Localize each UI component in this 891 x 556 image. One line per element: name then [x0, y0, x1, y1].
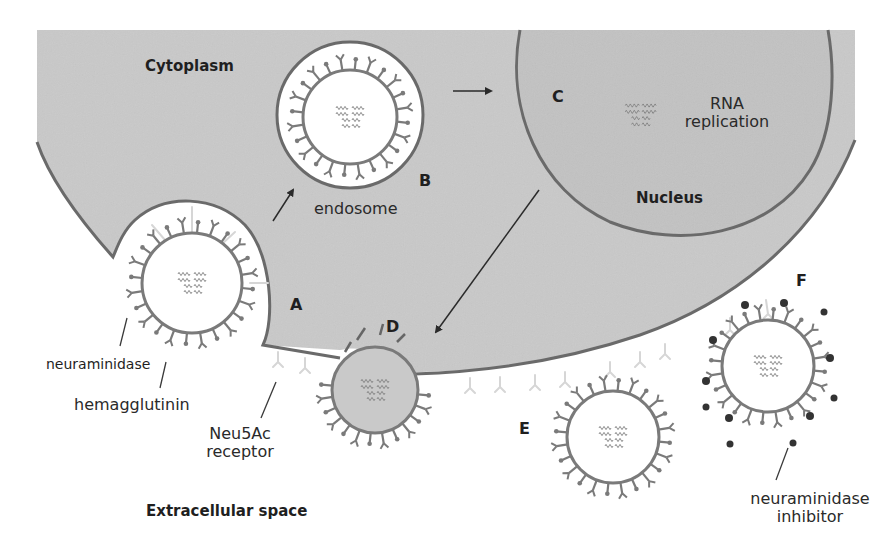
stage-f-label: F: [796, 272, 807, 290]
neuraminidase-inhibitor-label: neuraminidase inhibitor: [735, 490, 885, 525]
stage-d-label: D: [386, 318, 399, 336]
stage-e-label: E: [519, 420, 530, 438]
neu5ac-receptor-line2: receptor: [198, 443, 282, 461]
neuraminidase-label: neuraminidase: [46, 357, 150, 372]
endosome-label: endosome: [314, 200, 397, 218]
hemagglutinin-label: hemagglutinin: [74, 396, 190, 414]
neuraminidase-inhibitor-line2: inhibitor: [735, 508, 885, 526]
virus-f: [706, 304, 830, 428]
rna-replication-line2: replication: [672, 113, 782, 131]
virus-e: [551, 375, 675, 499]
influenza-lifecycle-diagram: [0, 0, 891, 556]
rna-replication-label: RNA replication: [672, 95, 782, 130]
rna-replication-line1: RNA: [672, 95, 782, 113]
stage-c-label: C: [552, 88, 564, 106]
extracellular-space-label: Extracellular space: [146, 503, 307, 520]
stage-a-label: A: [290, 296, 302, 314]
stage-b-label: B: [419, 172, 431, 190]
neu5ac-receptor-label: Neu5Ac receptor: [198, 425, 282, 460]
neuraminidase-inhibitor-line1: neuraminidase: [735, 490, 885, 508]
nucleus-label: Nucleus: [636, 190, 703, 207]
cytoplasm-label: Cytoplasm: [145, 58, 234, 75]
neu5ac-receptor-line1: Neu5Ac: [198, 425, 282, 443]
